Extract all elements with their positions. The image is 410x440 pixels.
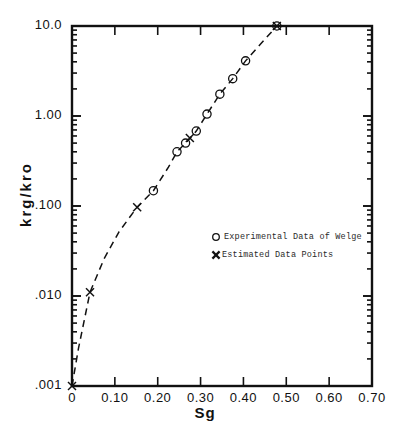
y-tick-label: 1.00 (16, 107, 62, 122)
x-tick-label: 0.50 (263, 390, 309, 405)
legend-label-estimated: Estimated Data Points (222, 250, 333, 260)
chart-figure: Sg krg/kro 10.01.00.100.010.001 00.100.2… (0, 0, 410, 440)
data-points (68, 22, 281, 390)
legend-label-experimental: Experimental Data of Welge (224, 232, 362, 242)
x-tick-label: 0.20 (135, 390, 181, 405)
y-tick-label: .100 (16, 197, 62, 212)
y-axis-title: krg/kro (17, 140, 34, 250)
x-tick-label: 0.10 (92, 390, 138, 405)
x-axis-title: Sg (0, 404, 410, 421)
x-tick-label: 0.40 (220, 390, 266, 405)
x-tick-label: 0.70 (349, 390, 395, 405)
x-tick-label: 0.30 (178, 390, 224, 405)
y-tick-label: 10.0 (16, 17, 62, 32)
x-tick-label: 0 (49, 390, 95, 405)
axes-frame (72, 26, 372, 386)
y-tick-label: .010 (16, 287, 62, 302)
legend-markers (212, 234, 219, 259)
fitted-curve (72, 26, 277, 386)
x-tick-label: 0.60 (306, 390, 352, 405)
chart-plot-area (0, 0, 410, 440)
axis-ticks (72, 26, 372, 386)
